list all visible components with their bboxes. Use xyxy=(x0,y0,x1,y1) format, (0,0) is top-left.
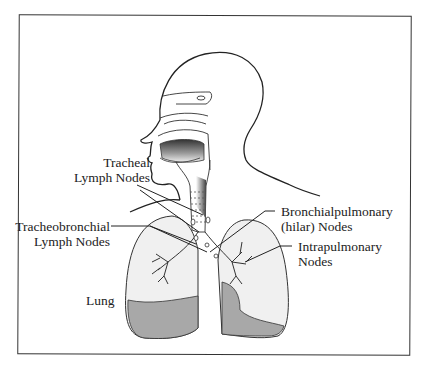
label-line: (hilar) Nodes xyxy=(281,219,393,234)
label-tracheobronchial-lymph-nodes: Tracheobronchial Lymph Nodes xyxy=(0,219,110,249)
label-intrapulmonary-nodes: Intrapulmonary Nodes xyxy=(298,239,382,269)
head-outline xyxy=(130,52,320,212)
label-line: Tracheal xyxy=(50,155,150,170)
respiratory-tract-illustration xyxy=(0,0,426,374)
left-lung-illustration xyxy=(126,216,198,339)
label-tracheal-lymph-nodes: Tracheal Lymph Nodes xyxy=(50,155,150,185)
label-line: Intrapulmonary xyxy=(298,239,382,254)
label-lung: Lung xyxy=(86,293,115,308)
label-line: Bronchialpulmonary xyxy=(281,204,393,219)
label-line: Nodes xyxy=(298,254,382,269)
label-line: Lymph Nodes xyxy=(50,170,150,185)
label-bronchialpulmonary-hilar-nodes: Bronchialpulmonary (hilar) Nodes xyxy=(281,204,393,234)
label-line: Lymph Nodes xyxy=(0,234,110,249)
label-line: Tracheobronchial xyxy=(0,219,110,234)
